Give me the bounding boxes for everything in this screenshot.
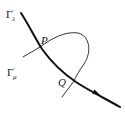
diagram-canvas: Γ′λ Γ′μ P Q (0, 0, 125, 114)
curve-gamma-lambda (21, 13, 120, 107)
label-point-q: Q (58, 76, 66, 88)
label-gamma-mu: Γ′μ (7, 66, 17, 81)
label-point-p: P (40, 34, 48, 46)
label-gamma-lambda: Γ′λ (6, 8, 15, 23)
